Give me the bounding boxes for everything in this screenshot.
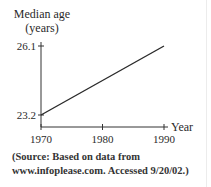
- x-axis-label: Year: [171, 120, 193, 134]
- source-line-2: www.infoplease.com. Accessed 9/20/02.): [12, 164, 189, 178]
- y-axis-label-line-1: Median age: [14, 7, 70, 21]
- y-tick-label: 23.2: [17, 109, 36, 121]
- source-note: (Source: Based on data from www.infoplea…: [12, 150, 189, 178]
- source-line-1: (Source: Based on data from: [12, 150, 189, 164]
- series-line-median-age: [41, 46, 164, 115]
- y-axis-label-line-2: (years): [25, 21, 58, 35]
- x-tick-label: 1970: [30, 133, 53, 145]
- y-tick-label: 26.1: [17, 40, 36, 52]
- x-tick-label: 1980: [92, 133, 115, 145]
- x-tick-label: 1990: [153, 133, 176, 145]
